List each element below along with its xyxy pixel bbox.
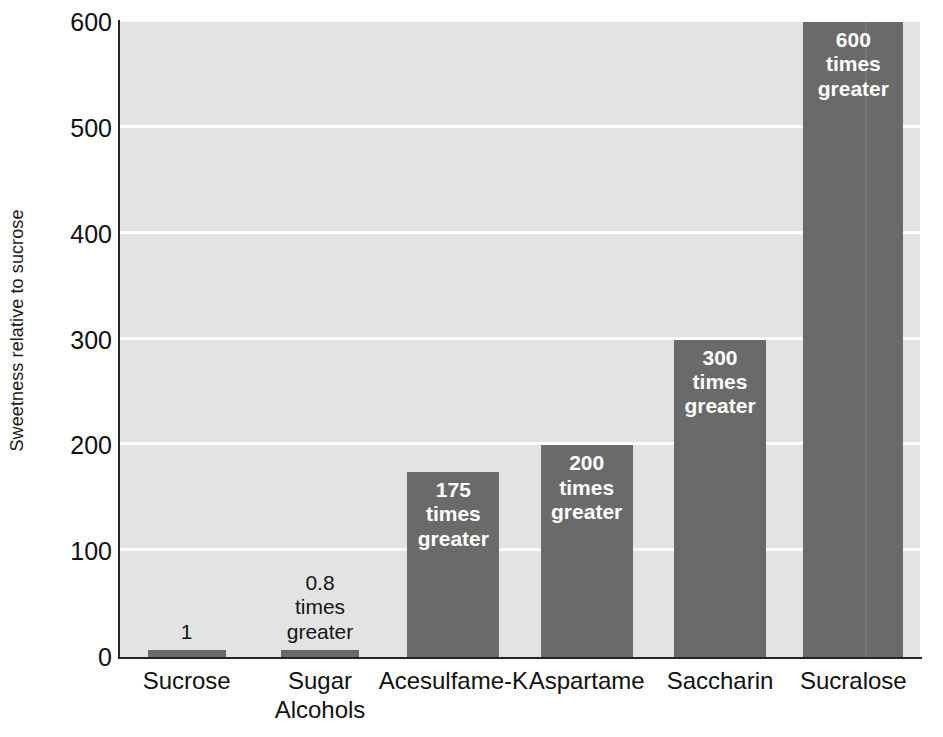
x-axis-spine (118, 657, 922, 659)
bar[interactable] (148, 650, 226, 657)
bar-value-label-line: 600 (803, 28, 903, 52)
gridline (120, 337, 920, 340)
y-axis-tick-label: 100 (38, 539, 112, 564)
bar-value-label-line: times (803, 52, 903, 76)
gridline (120, 231, 920, 234)
bar[interactable]: 175timesgreater (407, 472, 499, 657)
x-axis-category-label-line: Sucralose (763, 666, 943, 695)
x-axis-category-label-line: Alcohols (230, 695, 410, 724)
bar[interactable]: 300timesgreater (674, 340, 766, 658)
y-axis-tick-label: 600 (38, 10, 112, 35)
bar-value-label-line: 300 (674, 346, 766, 370)
y-axis-tick-label: 200 (38, 433, 112, 458)
plot-area: 10.8timesgreater175timesgreater200timesg… (120, 22, 920, 657)
bar-value-label: 300timesgreater (674, 346, 766, 419)
x-axis-category-label: Sucralose (763, 666, 943, 695)
bar-chart: Sweetness relative to sucrose 0100200300… (0, 0, 943, 737)
y-axis-title-text: Sweetness relative to sucrose (7, 209, 28, 451)
y-axis-spine (118, 20, 120, 659)
x-axis-category-labels: SucroseSugarAlcoholsAcesulfame-KAspartam… (120, 666, 920, 736)
bar-value-label-line: 1 (107, 620, 267, 644)
bar-value-label-line: 175 (407, 478, 499, 502)
bar-value-label: 200timesgreater (541, 451, 633, 524)
gridline (120, 442, 920, 445)
gridline (120, 548, 920, 551)
bar-value-label-line: greater (674, 394, 766, 418)
bar[interactable] (281, 650, 359, 657)
bar-value-label: 1 (107, 620, 267, 644)
y-axis-tick-label: 500 (38, 115, 112, 140)
bar-value-label-line: times (407, 502, 499, 526)
bar-value-label-line: times (674, 370, 766, 394)
bar-value-label: 175timesgreater (407, 478, 499, 551)
bar-value-label-line: 200 (541, 451, 633, 475)
bar-value-label-line: greater (541, 500, 633, 524)
y-axis-tick-label: 400 (38, 221, 112, 246)
bar-value-label-line: greater (240, 620, 400, 644)
bar[interactable]: 200timesgreater (541, 445, 633, 657)
bar[interactable]: 600timesgreater (803, 22, 903, 657)
bar-value-label-line: greater (407, 527, 499, 551)
bar-seam (865, 22, 867, 657)
bar-value-label-line: times (541, 476, 633, 500)
bar-value-label-line: 0.8 (240, 571, 400, 595)
gridline (120, 125, 920, 128)
bar-value-label-line: times (240, 595, 400, 619)
y-axis-tick-label: 300 (38, 327, 112, 352)
bar-value-label: 600timesgreater (803, 28, 903, 101)
bar-value-label: 0.8timesgreater (240, 571, 400, 644)
y-axis-title: Sweetness relative to sucrose (0, 0, 34, 660)
y-axis-tick-labels: 0100200300400500600 (38, 0, 112, 700)
bar-value-label-line: greater (803, 77, 903, 101)
